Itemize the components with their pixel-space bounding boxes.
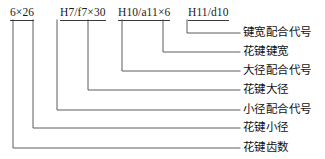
leader-path-key-width [163,20,240,52]
leader-path-minor-fit [57,20,240,110]
spline-designation-diagram: 6×26 H7/f7×30 H10/a11×6 H11/d10 键宽配合代号 花… [0,0,325,159]
callout-label-minor-diameter-fit: 小径配合代号 [243,103,311,116]
leader-path-teeth-count [13,20,240,148]
leader-path-key-width-fit [187,20,240,33]
callout-label-spline-minor-diameter: 花键小径 [243,121,289,134]
leader-path-major-dia [88,20,240,90]
code-label-minor-fit-and-major: H7/f7×30 [60,6,106,21]
code-label-key-width-fit: H11/d10 [188,6,229,21]
leader-path-minor-dia [33,20,240,128]
callout-label-key-width-fit: 键宽配合代号 [243,26,311,39]
callout-label-spline-key-width: 花键键宽 [243,45,289,58]
callout-label-major-diameter-fit: 大径配合代号 [243,64,311,77]
leader-lines [0,0,325,159]
leader-path-major-fit [122,20,240,71]
code-label-major-fit-and-key-width: H10/a11×6 [118,6,170,21]
callout-label-spline-major-diameter: 花键大径 [243,83,289,96]
code-label-teeth-and-minor: 6×26 [10,6,34,21]
callout-label-spline-teeth-count: 花键齿数 [243,141,289,154]
